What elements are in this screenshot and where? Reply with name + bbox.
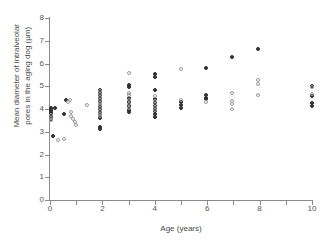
x-axis-title: Age (years) [49, 224, 313, 233]
data-point-filled [62, 112, 66, 116]
x-tick-label-0: 0 [42, 205, 58, 213]
data-point-open [230, 102, 234, 106]
data-point-open [85, 103, 89, 107]
y-tick-8 [45, 18, 49, 19]
data-point-filled [53, 106, 57, 110]
y-tick-label-8: 8 [30, 14, 44, 22]
y-tick-5 [45, 86, 49, 87]
data-point-open [230, 91, 234, 95]
x-tick-5 [181, 201, 182, 205]
data-point-open [68, 98, 72, 102]
x-tick-label-4: 4 [147, 205, 163, 213]
y-tick-label-3: 3 [30, 128, 44, 136]
x-tick-3 [129, 201, 130, 205]
data-point-open [256, 82, 260, 86]
y-axis-title: Mean diameter of intralveolar pores in t… [12, 0, 34, 161]
scatter-chart-figure: Mean diameter of intralveolar pores in t… [0, 0, 325, 244]
y-tick-label-4: 4 [30, 105, 44, 113]
data-point-open [256, 93, 260, 97]
data-point-open [153, 108, 157, 112]
data-point-filled [98, 127, 102, 131]
y-tick-1 [45, 177, 49, 178]
data-point-open [62, 137, 66, 141]
data-point-filled [256, 47, 260, 51]
data-point-filled [127, 110, 131, 114]
data-point-open [256, 78, 260, 82]
data-point-open [310, 85, 314, 89]
x-tick-7 [233, 201, 234, 205]
y-tick-7 [45, 41, 49, 42]
x-tick-9 [286, 201, 287, 205]
y-tick-label-0: 0 [30, 196, 44, 204]
data-point-open [127, 93, 131, 97]
data-point-filled [127, 85, 131, 89]
x-tick-label-2: 2 [94, 205, 110, 213]
data-point-open [56, 138, 60, 142]
data-point-filled [204, 66, 208, 70]
y-tick-label-1: 1 [30, 173, 44, 181]
data-point-open [204, 100, 208, 104]
data-point-open [49, 118, 53, 122]
data-point-filled [179, 106, 183, 110]
y-axis-title-container: Mean diameter of intralveolar pores in t… [0, 20, 46, 210]
y-tick-0 [45, 200, 49, 201]
x-tick-label-10: 10 [304, 205, 320, 213]
y-tick-label-2: 2 [30, 151, 44, 159]
data-point-filled [153, 88, 157, 92]
x-tick-1 [76, 201, 77, 205]
data-point-filled [153, 115, 157, 119]
data-point-filled [230, 55, 234, 59]
y-tick-2 [45, 155, 49, 156]
data-point-filled [153, 75, 157, 79]
data-point-open [179, 67, 183, 71]
data-point-filled [310, 104, 314, 108]
data-point-open [230, 107, 234, 111]
data-point-open [127, 106, 131, 110]
data-point-open [310, 92, 314, 96]
data-point-open [127, 71, 131, 75]
y-tick-label-7: 7 [30, 37, 44, 45]
plot-area [50, 18, 312, 200]
x-tick-label-8: 8 [252, 205, 268, 213]
y-tick-label-6: 6 [30, 60, 44, 68]
data-point-filled [51, 134, 55, 138]
y-tick-label-5: 5 [30, 82, 44, 90]
y-tick-3 [45, 132, 49, 133]
y-axis-title-line-1: Mean diameter of intralveolar [12, 24, 21, 128]
data-point-open [74, 123, 78, 127]
x-tick-label-6: 6 [199, 205, 215, 213]
y-tick-6 [45, 64, 49, 65]
